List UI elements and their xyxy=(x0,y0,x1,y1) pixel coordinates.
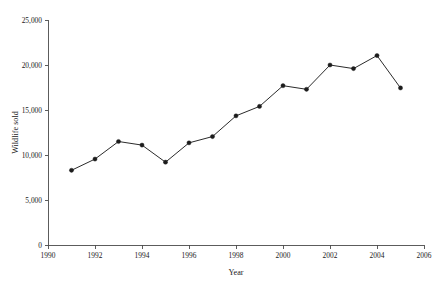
y-axis-tick-label: 0 xyxy=(38,241,42,250)
data-point-marker xyxy=(93,157,97,161)
y-axis-tick-label: 15,000 xyxy=(22,106,43,115)
x-axis-tick-label: 2002 xyxy=(323,251,338,260)
x-axis-tick-label: 1994 xyxy=(135,251,150,260)
data-point-marker xyxy=(187,141,191,145)
data-point-marker xyxy=(398,86,402,90)
y-axis-tick-group: 05,00010,00015,00020,00025,000 xyxy=(22,16,48,250)
y-axis-tick-label: 20,000 xyxy=(22,61,43,70)
x-axis-tick-label: 2004 xyxy=(370,251,385,260)
x-axis-tick-label: 1992 xyxy=(88,251,103,260)
x-axis-tick-label: 2006 xyxy=(417,251,432,260)
chart-figure: 05,00010,00015,00020,00025,000 199019921… xyxy=(0,0,440,285)
x-axis-tick-label: 1990 xyxy=(41,251,56,260)
x-axis-tick-label: 2000 xyxy=(276,251,291,260)
data-point-marker xyxy=(69,168,73,172)
data-point-marker xyxy=(140,143,144,147)
x-axis-title: Year xyxy=(228,268,243,277)
data-point-marker xyxy=(328,63,332,67)
data-point-marker xyxy=(281,84,285,88)
x-axis-tick-label: 1998 xyxy=(229,251,244,260)
data-point-marker xyxy=(163,160,167,164)
y-axis-tick-label: 25,000 xyxy=(22,16,43,25)
data-point-marker xyxy=(210,134,214,138)
data-point-marker xyxy=(375,53,379,57)
data-point-marker xyxy=(234,114,238,118)
series-line-wildlife-sold xyxy=(72,56,401,171)
series-marker-group xyxy=(69,53,402,172)
x-axis-tick-label: 1996 xyxy=(182,251,197,260)
y-axis-title: Wildlife sold xyxy=(11,111,20,154)
data-point-marker xyxy=(351,67,355,71)
data-point-marker xyxy=(304,87,308,91)
x-axis-tick-group: 199019921994199619982000200220042006 xyxy=(41,245,432,260)
data-point-marker xyxy=(257,104,261,108)
data-point-marker xyxy=(116,139,120,143)
y-axis-tick-label: 5,000 xyxy=(25,196,42,205)
line-chart-plot: 05,00010,00015,00020,00025,000 199019921… xyxy=(0,0,440,285)
y-axis-tick-label: 10,000 xyxy=(22,151,43,160)
